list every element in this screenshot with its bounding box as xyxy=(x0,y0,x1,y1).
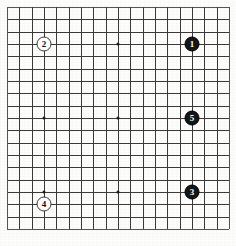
stone-move-number: 3 xyxy=(190,187,195,196)
stone-move-number: 1 xyxy=(190,39,195,48)
star-point-10-10 xyxy=(116,116,119,119)
stone-2-white[interactable]: 2 xyxy=(36,36,51,51)
grid-line-vertical-1 xyxy=(7,7,8,229)
grid-line-vertical-17 xyxy=(204,7,205,229)
grid-line-vertical-15 xyxy=(180,7,181,229)
stone-3-black[interactable]: 3 xyxy=(184,184,199,199)
grid-line-vertical-7 xyxy=(81,7,82,229)
grid-line-vertical-3 xyxy=(32,7,33,229)
star-point-10-16 xyxy=(116,190,119,193)
grid-line-vertical-18 xyxy=(217,7,218,229)
grid-line-horizontal-19 xyxy=(7,229,229,230)
stone-5-black[interactable]: 5 xyxy=(184,110,199,125)
star-point-4-16 xyxy=(42,190,45,193)
stone-move-number: 5 xyxy=(190,113,195,122)
star-point-4-10 xyxy=(42,116,45,119)
grid-line-vertical-11 xyxy=(130,7,131,229)
grid-line-vertical-8 xyxy=(93,7,94,229)
stone-1-black[interactable]: 1 xyxy=(184,36,199,51)
goban-grid[interactable]: 12345 xyxy=(0,0,236,246)
grid-line-vertical-12 xyxy=(143,7,144,229)
star-point-10-4 xyxy=(116,42,119,45)
go-board-figure: 12345 xyxy=(0,0,236,246)
grid-line-vertical-6 xyxy=(69,7,70,229)
grid-line-vertical-19 xyxy=(229,7,230,229)
stone-move-number: 4 xyxy=(42,200,47,209)
grid-line-vertical-13 xyxy=(155,7,156,229)
grid-line-vertical-14 xyxy=(167,7,168,229)
grid-line-vertical-2 xyxy=(19,7,20,229)
stone-move-number: 2 xyxy=(42,39,47,48)
grid-line-vertical-9 xyxy=(106,7,107,229)
grid-line-vertical-5 xyxy=(56,7,57,229)
stone-4-white[interactable]: 4 xyxy=(36,197,51,212)
